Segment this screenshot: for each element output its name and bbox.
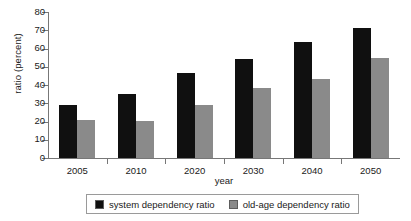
y-tick-label: 0 [23, 152, 45, 163]
bar-group [235, 12, 271, 158]
y-tick-label: 10 [23, 133, 45, 144]
y-tick: 30 [48, 103, 49, 104]
bar [294, 42, 312, 158]
bar-chart: ratio (percent) 01020304050607080 200520… [0, 0, 411, 221]
bar [59, 105, 77, 158]
x-tick-mark [107, 159, 108, 164]
legend-swatch-icon [229, 200, 238, 209]
bar-group [353, 12, 389, 158]
x-axis-title: year [48, 175, 400, 186]
chart-legend: system dependency ratioold-age dependenc… [86, 194, 359, 214]
x-tick-mark [165, 159, 166, 164]
y-tick: 80 [48, 12, 49, 13]
bar [118, 94, 136, 158]
bar [253, 88, 271, 158]
y-tick-label: 70 [23, 24, 45, 35]
y-tick-label: 20 [23, 115, 45, 126]
legend-label: old-age dependency ratio [243, 199, 350, 210]
legend-swatch-icon [95, 200, 104, 209]
y-tick: 60 [48, 49, 49, 50]
y-tick-label: 30 [23, 97, 45, 108]
y-tick: 10 [48, 140, 49, 141]
y-tick-label: 60 [23, 42, 45, 53]
bar [353, 28, 371, 158]
legend-label: system dependency ratio [109, 199, 215, 210]
y-tick: 0 [48, 158, 49, 159]
bar-group [118, 12, 154, 158]
legend-item[interactable]: system dependency ratio [95, 199, 215, 210]
x-tick-mark [341, 159, 342, 164]
y-tick: 40 [48, 85, 49, 86]
y-tick-label: 50 [23, 60, 45, 71]
bar-group [177, 12, 213, 158]
x-tick-mark [224, 159, 225, 164]
y-tick: 20 [48, 122, 49, 123]
y-tick: 70 [48, 30, 49, 31]
y-tick-label: 40 [23, 79, 45, 90]
x-tick-mark [283, 159, 284, 164]
y-axis-title: ratio (percent) [12, 9, 23, 119]
bar [177, 73, 195, 158]
bar [195, 105, 213, 158]
bar [312, 79, 330, 158]
bar [77, 120, 95, 158]
bar [235, 59, 253, 158]
legend-item[interactable]: old-age dependency ratio [229, 199, 350, 210]
bar [136, 121, 154, 158]
bar-group [294, 12, 330, 158]
y-tick: 50 [48, 67, 49, 68]
plot-area: 01020304050607080 2005201020202030204020… [48, 12, 400, 159]
bar [371, 58, 389, 158]
bar-group [59, 12, 95, 158]
y-tick-label: 80 [23, 6, 45, 17]
